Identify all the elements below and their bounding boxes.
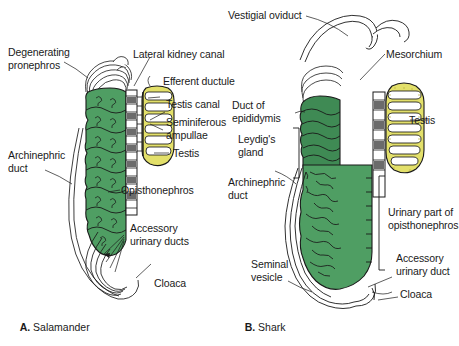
opisthonephros-shape bbox=[85, 88, 126, 256]
opisthonephros-shape-b bbox=[300, 165, 373, 289]
label-opisthonephros: Opisthonephros bbox=[121, 184, 194, 197]
label-degenerating-pronephros: Degenerating pronephros bbox=[8, 46, 70, 71]
label-cloaca-a: Cloaca bbox=[154, 277, 186, 290]
label-lateral-kidney-canal: Lateral kidney canal bbox=[133, 48, 224, 61]
caption-panel-a: A. Salamander bbox=[8, 308, 90, 346]
label-seminal-vesicle: Seminal vesicle bbox=[251, 258, 288, 283]
label-testis-canal: Testis canal bbox=[166, 98, 220, 111]
label-accessory-urinary-duct: Accessory urinary duct bbox=[396, 252, 450, 277]
label-urinary-part-of-opisthonephros: Urinary part of opisthonephros bbox=[388, 206, 458, 231]
label-testis-a: Testis bbox=[173, 147, 199, 160]
label-duct-of-epididymis: Duct of epididymis bbox=[232, 99, 281, 124]
label-efferent-ductule: Efferent ductule bbox=[163, 75, 235, 88]
duct-of-epididymis-shape bbox=[300, 96, 340, 168]
caption-panel-b: B. Shark bbox=[233, 308, 286, 346]
label-mesorchium: Mesorchium bbox=[386, 48, 442, 61]
label-archinephric-duct-b: Archinephric duct bbox=[228, 176, 285, 201]
label-accessory-urinary-ducts: Accessory urinary ducts bbox=[130, 222, 189, 247]
caption-name-a: Salamander bbox=[30, 321, 90, 333]
label-cloaca-b: Cloaca bbox=[400, 288, 432, 301]
panel-b-artwork bbox=[177, 0, 428, 309]
label-vestigial-oviduct: Vestigial oviduct bbox=[228, 9, 302, 22]
testis-shape-b bbox=[386, 83, 424, 173]
label-seminiferous-ampullae: Seminiferous ampullae bbox=[166, 116, 226, 141]
caption-letter-b: B. bbox=[245, 321, 256, 333]
caption-letter-a: A. bbox=[20, 321, 31, 333]
label-archinephric-duct-a: Archinephric duct bbox=[8, 149, 65, 174]
label-testis-b: Testis bbox=[409, 114, 435, 127]
label-leydigs-gland: Leydig's gland bbox=[238, 133, 275, 158]
figure-urogenital-systems: Degenerating pronephros Lateral kidney c… bbox=[0, 0, 459, 346]
caption-name-b: Shark bbox=[255, 321, 285, 333]
panel-a-artwork bbox=[45, 57, 174, 300]
leydigs-gland-bracket bbox=[293, 128, 299, 178]
